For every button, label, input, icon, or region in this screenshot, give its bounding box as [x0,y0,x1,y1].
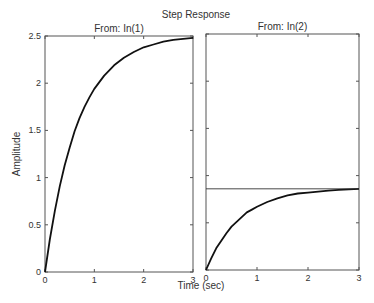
x-tick-label: 3 [190,275,195,285]
x-tick-label: 0 [42,275,47,285]
y-tick-label: 0.5 [28,220,41,230]
panel-from-in2: From: In(2)0123 [203,21,361,283]
y-tick-label: 2.5 [28,31,41,41]
y-tick-label: 2 [36,78,41,88]
axes-frame [206,34,359,270]
step-response-curve [45,38,193,272]
panel-from-in1: From: In(1)012300.511.522.5 [28,23,195,285]
x-tick-label: 2 [305,273,310,283]
x-tick-label: 0 [203,273,208,283]
x-tick-label: 2 [141,275,146,285]
figure-title: Step Response [162,9,231,20]
y-axis-label: Amplitude [11,131,22,176]
step-response-curve [206,189,359,270]
panel-title: From: In(1) [94,23,143,34]
y-tick-label: 1.5 [28,125,41,135]
x-axis-label: Time (sec) [178,280,225,291]
x-tick-label: 1 [254,273,259,283]
x-tick-label: 3 [356,273,361,283]
panel-title: From: In(2) [258,21,307,32]
x-tick-label: 1 [92,275,97,285]
y-tick-label: 1 [36,173,41,183]
y-tick-label: 0 [36,267,41,277]
step-response-figure: Step Response Amplitude Time (sec) From:… [0,0,374,303]
